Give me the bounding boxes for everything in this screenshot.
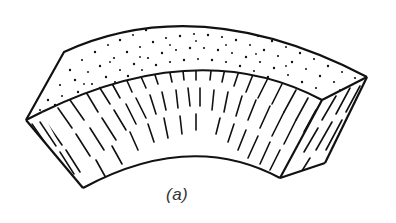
bottom-edge xyxy=(83,156,280,188)
block-outline xyxy=(26,26,367,188)
left-edge xyxy=(26,120,83,188)
curved-block-drawing xyxy=(0,0,396,223)
right-side-face-hatch xyxy=(300,86,360,174)
figure-caption: (a) xyxy=(166,185,188,205)
right-back-edge xyxy=(325,77,367,163)
curved-block-figure: (a) xyxy=(0,0,396,223)
front-face-hatch xyxy=(48,62,316,178)
front-top-edge xyxy=(42,70,322,112)
left-side-face-hatch xyxy=(32,122,74,174)
